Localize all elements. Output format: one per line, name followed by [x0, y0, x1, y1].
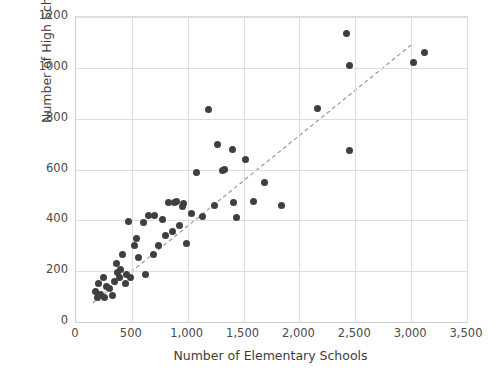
data-point — [140, 219, 147, 226]
y-axis-title: Number of High Schools — [39, 0, 54, 178]
gridline-horizontal — [76, 119, 467, 120]
data-point — [135, 254, 142, 261]
data-point — [199, 213, 206, 220]
x-axis-title: Number of Elementary Schools — [75, 348, 466, 363]
gridline-horizontal — [76, 17, 467, 18]
x-axis-tick-label: 2,000 — [282, 326, 315, 340]
data-point — [229, 146, 236, 153]
x-axis-tick-label: 500 — [120, 326, 142, 340]
data-point — [131, 242, 138, 249]
scatter-chart-figure: Number of Elementary Schools Number of H… — [0, 0, 500, 377]
gridline-horizontal — [76, 170, 467, 171]
data-point — [133, 235, 140, 242]
data-point — [314, 105, 321, 112]
data-point — [169, 228, 176, 235]
data-point — [150, 251, 157, 258]
gridline-horizontal — [76, 68, 467, 69]
x-axis-tick-label: 1,000 — [170, 326, 203, 340]
data-point — [116, 274, 123, 281]
x-axis-tick-label: 1,500 — [226, 326, 259, 340]
data-point — [151, 212, 158, 219]
data-point — [250, 198, 257, 205]
data-point — [162, 232, 169, 239]
data-point — [183, 240, 190, 247]
data-point — [346, 62, 353, 69]
data-point — [261, 179, 268, 186]
x-axis-tick-label: 0 — [71, 326, 78, 340]
data-point — [343, 30, 350, 37]
data-point — [159, 216, 166, 223]
data-point — [122, 280, 129, 287]
x-axis-tick-label: 3,500 — [450, 326, 483, 340]
plot-area — [75, 16, 468, 323]
x-axis-tick-label: 3,000 — [394, 326, 427, 340]
x-axis-tick-label: 2,500 — [338, 326, 371, 340]
data-point — [211, 202, 218, 209]
data-point — [278, 202, 285, 209]
gridline-vertical — [467, 17, 468, 322]
chart-title-clipped — [0, 0, 500, 5]
data-point — [214, 141, 221, 148]
data-point — [193, 169, 200, 176]
gridline-horizontal — [76, 271, 467, 272]
data-point — [230, 199, 237, 206]
gridline-horizontal — [76, 220, 467, 221]
